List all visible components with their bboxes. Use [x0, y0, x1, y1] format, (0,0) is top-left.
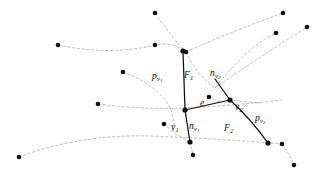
dashed-curve — [186, 33, 276, 88]
vertex-left — [182, 107, 187, 112]
site-point — [305, 25, 310, 30]
dashed-curve — [19, 136, 282, 157]
label-subsubscript: 1 — [197, 128, 200, 133]
site-point — [162, 122, 167, 127]
label-n-v1: nv1 — [189, 122, 200, 133]
site-point — [292, 163, 297, 168]
solid-edge-e — [185, 100, 230, 110]
label-subscript: v2 — [260, 117, 266, 124]
site-point — [280, 142, 285, 147]
label-subscript: 2 — [239, 106, 242, 113]
site-point — [207, 95, 212, 100]
dashed-curve — [215, 27, 307, 88]
label-base: e — [200, 98, 204, 108]
label-p-v1: pv1 — [152, 72, 163, 83]
label-subsubscript: 2 — [218, 75, 221, 80]
label-F2: F2 — [224, 124, 233, 134]
dashed-curve — [186, 13, 283, 52]
label-subscript: 1 — [190, 74, 193, 81]
dashed-curve — [282, 144, 294, 165]
site-point — [17, 155, 22, 160]
site-point — [96, 102, 101, 107]
solid-edge-nv2 — [215, 79, 230, 100]
vertex-bottom — [187, 139, 192, 144]
label-subsubscript: 1 — [160, 78, 163, 83]
site-point — [56, 43, 61, 48]
dashed-curve — [58, 44, 186, 52]
diagram-svg — [0, 0, 320, 176]
label-subscript: v1 — [194, 125, 200, 132]
site-point — [153, 11, 158, 16]
site-point — [121, 70, 126, 75]
label-subsubscript: 2 — [263, 120, 266, 125]
vertex-right — [227, 97, 232, 102]
label-v2: v2 — [235, 103, 243, 113]
label-subscript: v1 — [157, 75, 163, 82]
vertex-top — [180, 48, 185, 53]
site-point — [281, 11, 286, 16]
label-n-v2: nv2 — [210, 69, 221, 80]
dashed-curve — [155, 13, 186, 52]
label-subscript: v2 — [215, 72, 221, 79]
label-v1: v1 — [171, 123, 179, 133]
label-subscript: 1 — [175, 126, 178, 133]
site-point — [191, 153, 196, 158]
site-point — [153, 43, 158, 48]
label-subscript: 2 — [230, 127, 233, 134]
label-p-v2: pv2 — [255, 114, 266, 125]
dashed-curves-group — [19, 13, 307, 165]
vertex-bottom-right — [265, 140, 270, 145]
label-e: e — [200, 99, 204, 109]
site-point — [274, 31, 279, 36]
points-group — [17, 11, 310, 168]
dashed-curve — [98, 100, 282, 109]
figure-canvas: pv1F1nv2ev2pv2v1nv1F2 — [0, 0, 320, 176]
label-F1: F1 — [184, 71, 193, 81]
